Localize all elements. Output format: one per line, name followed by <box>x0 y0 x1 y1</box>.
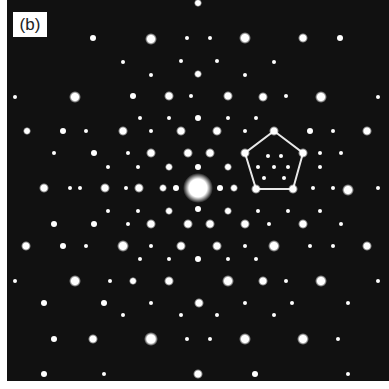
diffraction-spot <box>318 165 322 169</box>
diffraction-spot <box>362 126 372 136</box>
diffraction-spot <box>376 186 380 190</box>
diffraction-spot <box>339 151 343 155</box>
diffraction-spot <box>173 185 179 191</box>
diffraction-spot <box>243 244 247 248</box>
diffraction-spot <box>217 185 223 191</box>
diffraction-spot <box>307 128 313 134</box>
diffraction-spot <box>167 257 171 261</box>
diffraction-spot <box>331 186 335 190</box>
diffraction-spot <box>342 184 354 196</box>
diffraction-spot <box>262 176 266 180</box>
panel-label: (b) <box>13 12 47 37</box>
diffraction-spot <box>194 298 204 308</box>
diffraction-spot <box>272 313 276 317</box>
diffraction-spot <box>138 116 142 120</box>
diffraction-spot <box>165 207 173 215</box>
diffraction-spot <box>266 154 270 158</box>
diffraction-spot <box>376 279 380 283</box>
diffraction-spot <box>243 73 247 77</box>
diffraction-spot <box>331 129 335 133</box>
diffraction-spot <box>136 209 140 213</box>
diffraction-spot <box>194 70 202 78</box>
diffraction-spot <box>212 126 222 136</box>
diffraction-spot <box>149 301 153 305</box>
diffraction-spot <box>69 275 81 287</box>
diffraction-spot <box>84 129 88 133</box>
diffraction-spot <box>183 219 193 229</box>
pentagon-vertex-spot <box>240 148 250 158</box>
diffraction-spot <box>69 91 81 103</box>
diffraction-spot <box>284 279 288 283</box>
diffraction-spot <box>222 275 234 287</box>
diffraction-spot <box>106 165 110 169</box>
diffraction-spot <box>164 91 174 101</box>
diffraction-spot <box>108 279 112 283</box>
pentagon-outline <box>245 131 303 189</box>
diffraction-spot <box>318 209 322 213</box>
diffraction-spot <box>286 165 290 169</box>
diffraction-figure <box>7 0 389 381</box>
diffraction-spot <box>267 222 271 226</box>
diffraction-spot <box>78 186 82 190</box>
diffraction-spot <box>101 300 107 306</box>
diffraction-spot <box>167 116 171 120</box>
diffraction-spot <box>254 116 258 120</box>
diffraction-spot <box>185 337 189 341</box>
diffraction-spot <box>164 276 174 286</box>
pentagon-vertex-spot <box>288 184 298 194</box>
diffraction-spot <box>23 127 31 135</box>
diffraction-spot <box>308 244 312 248</box>
diffraction-spot <box>256 165 260 169</box>
diffraction-spot <box>346 301 350 305</box>
diffraction-spot <box>243 301 247 305</box>
diffraction-spot <box>362 241 372 251</box>
diffraction-spot <box>176 241 186 251</box>
diffraction-spot <box>118 126 128 136</box>
diffraction-spot <box>60 243 66 249</box>
diffraction-spot <box>117 240 129 252</box>
diffraction-spot <box>126 151 130 155</box>
diffraction-spot <box>224 207 232 215</box>
diffraction-spot <box>272 165 276 169</box>
diffraction-spot <box>194 0 202 7</box>
diffraction-spot <box>215 59 219 63</box>
diffraction-spot <box>272 60 276 64</box>
diffraction-spot <box>179 59 183 63</box>
diffraction-spot <box>106 209 110 213</box>
diffraction-spot <box>144 332 158 346</box>
diffraction-spot <box>252 371 258 377</box>
diffraction-spot <box>205 148 215 158</box>
diffraction-spot <box>52 151 56 155</box>
central-beam-spot <box>183 173 213 203</box>
diffraction-spot <box>226 116 230 120</box>
diffraction-spot <box>254 257 258 261</box>
diffraction-spot <box>91 221 97 227</box>
diffraction-spot <box>149 129 153 133</box>
diffraction-spot <box>290 301 294 305</box>
diffraction-spot <box>60 128 66 134</box>
diffraction-spot <box>126 222 130 226</box>
diffraction-spot <box>268 240 280 252</box>
diffraction-spot <box>129 277 137 285</box>
diffraction-spot <box>208 36 212 40</box>
diffraction-spot <box>224 163 232 171</box>
diffraction-spot <box>215 313 219 317</box>
diffraction-spot <box>121 60 125 64</box>
diffraction-spot <box>230 184 238 192</box>
diffraction-spot <box>298 33 308 43</box>
diffraction-spot <box>41 371 47 377</box>
diffraction-spot <box>91 150 97 156</box>
diffraction-spot <box>212 241 222 251</box>
diffraction-spot <box>193 369 203 379</box>
diffraction-spot <box>138 257 142 261</box>
diffraction-spot <box>205 219 215 229</box>
diffraction-spot <box>183 148 193 158</box>
diffraction-spot <box>226 257 230 261</box>
diffraction-spot <box>239 333 251 345</box>
diffraction-spot <box>146 148 156 158</box>
diffraction-spot <box>240 219 250 229</box>
diffraction-spot <box>124 186 128 190</box>
diffraction-spot <box>68 186 72 190</box>
diffraction-spot <box>149 244 153 248</box>
diffraction-spot <box>339 222 343 226</box>
